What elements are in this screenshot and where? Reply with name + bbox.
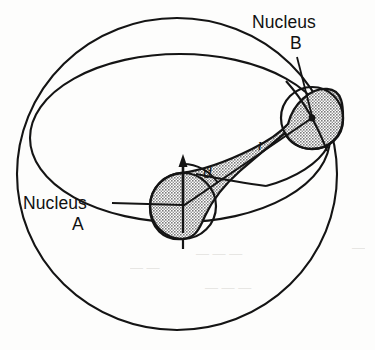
- equator-arc-over-blob: [266, 146, 328, 186]
- dumbbell-region: [150, 89, 343, 239]
- ghost-mark: — —: [130, 260, 160, 275]
- nucleus-a-label-line1: Nucleus: [23, 193, 87, 213]
- dumbbell-shape: [150, 89, 343, 239]
- nucleus-b-label-line2: B: [290, 33, 302, 53]
- angle-label: ϑ: [203, 164, 212, 181]
- nucleus-a-label-line2: A: [72, 214, 84, 234]
- ghost-mark: — — —: [196, 246, 242, 261]
- nucleus-diagram: — — — — — — — — —: [0, 0, 375, 350]
- figure-root: — — — — — — — — —: [0, 0, 375, 350]
- radius-label: r: [258, 136, 265, 153]
- nucleus-b-label-line1: Nucleus: [252, 12, 316, 32]
- page-ghost-marks: — — — — — — — — —: [130, 240, 365, 295]
- ghost-mark: —: [352, 240, 365, 255]
- ghost-mark: — — —: [205, 280, 251, 295]
